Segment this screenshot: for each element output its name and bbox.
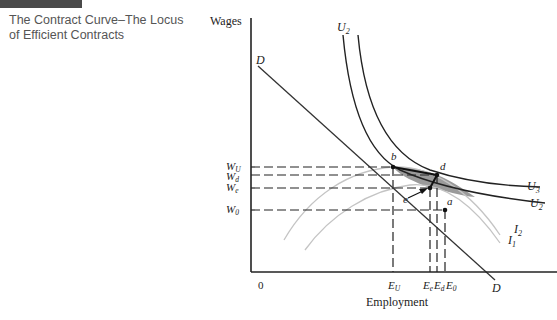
label-u3: U3 bbox=[527, 179, 540, 195]
isoprofit-curve-i2 bbox=[284, 167, 500, 240]
union-curve-u3 bbox=[358, 35, 540, 187]
origin-label: 0 bbox=[258, 279, 264, 291]
label-d-top: D bbox=[255, 53, 265, 67]
arrowhead-icon bbox=[419, 188, 428, 194]
tick-e0: E0 bbox=[445, 279, 457, 293]
point-d bbox=[435, 173, 440, 178]
union-curve-u2 bbox=[343, 35, 545, 203]
tick-ed: Ed bbox=[433, 279, 445, 293]
guide-lines bbox=[251, 167, 445, 272]
contract-curve-chart: Wages Employment 0 D D U2 U3 U2 I2 I1 b … bbox=[0, 0, 557, 320]
point-b bbox=[391, 165, 396, 170]
label-e: e bbox=[403, 193, 408, 205]
label-d-point: d bbox=[440, 160, 446, 172]
x-axis-label: Employment bbox=[366, 295, 429, 309]
point-a bbox=[443, 208, 448, 213]
tick-w0: W0 bbox=[226, 203, 239, 217]
label-b: b bbox=[391, 150, 397, 162]
label-u2-top: U2 bbox=[337, 20, 350, 36]
point-e bbox=[428, 186, 433, 191]
tick-eu: EU bbox=[387, 279, 401, 293]
demand-curve-d bbox=[258, 66, 495, 280]
label-u2-right: U2 bbox=[530, 196, 543, 212]
label-i2: I2 bbox=[513, 222, 522, 238]
label-d-bottom: D bbox=[491, 281, 501, 295]
y-axis-label: Wages bbox=[210, 14, 242, 28]
tick-ee: Ee bbox=[422, 279, 434, 293]
label-a: a bbox=[447, 195, 453, 207]
